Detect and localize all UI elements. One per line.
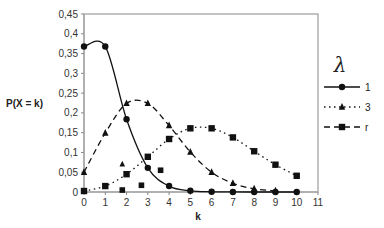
square-marker xyxy=(294,173,300,179)
square-marker xyxy=(230,134,236,140)
square-marker xyxy=(119,187,125,193)
square-marker xyxy=(166,136,172,142)
square-marker xyxy=(251,148,257,154)
y-tick-label: 0,45 xyxy=(59,9,79,20)
x-tick-label: 2 xyxy=(124,197,130,208)
x-tick-label: 3 xyxy=(145,197,151,208)
legend-label: r xyxy=(365,122,369,133)
y-axis-label: P(X = k) xyxy=(6,98,43,109)
y-tick-label: 0,1 xyxy=(64,147,78,158)
x-tick-label: 11 xyxy=(313,197,324,208)
triangle-marker xyxy=(230,179,236,186)
triangle-marker xyxy=(102,129,108,136)
y-tick-label: 0,05 xyxy=(59,167,79,178)
plot-frame xyxy=(84,14,318,192)
circle-marker xyxy=(81,43,87,49)
circle-marker xyxy=(294,189,300,195)
circle-marker xyxy=(123,116,129,122)
circle-marker xyxy=(208,189,214,195)
square-marker xyxy=(123,171,129,177)
circle-marker xyxy=(230,189,236,195)
y-tick-label: 0 xyxy=(72,187,78,198)
y-tick-label: 0,15 xyxy=(59,127,79,138)
circle-marker xyxy=(102,43,108,49)
series xyxy=(81,41,300,195)
x-tick-label: 10 xyxy=(291,197,303,208)
x-tick-label: 1 xyxy=(102,197,108,208)
circle-marker xyxy=(187,188,193,194)
x-tick-label: 9 xyxy=(273,197,279,208)
legend-label: 1 xyxy=(365,82,371,93)
legend-item-3: 3 xyxy=(324,102,371,113)
legend-title: λ xyxy=(333,53,347,77)
x-axis-label: k xyxy=(195,211,201,222)
triangle-marker xyxy=(208,168,214,175)
x-tick-label: 5 xyxy=(188,197,194,208)
x-tick-label: 8 xyxy=(251,197,257,208)
legend-item-1: 1 xyxy=(324,82,371,93)
square-marker xyxy=(81,188,87,194)
y-tick-label: 0,35 xyxy=(59,48,79,59)
square-marker xyxy=(272,162,278,168)
square-marker xyxy=(145,154,151,160)
x-tick-label: 0 xyxy=(81,197,87,208)
legend: λ 13r xyxy=(324,53,371,133)
y-tick-label: 0,2 xyxy=(64,107,78,118)
x-tick-label: 7 xyxy=(230,197,236,208)
circle-marker xyxy=(145,165,151,171)
series-3 xyxy=(81,99,279,193)
poisson-chart: 00,050,10,150,20,250,30,350,40,450123456… xyxy=(0,0,384,228)
square-marker xyxy=(158,167,164,173)
axes: 00,050,10,150,20,250,30,350,40,450123456… xyxy=(59,9,324,209)
triangle-marker xyxy=(119,161,125,167)
square-marker xyxy=(208,125,214,131)
square-marker xyxy=(187,125,193,131)
x-tick-label: 4 xyxy=(166,197,172,208)
square-marker xyxy=(339,124,345,130)
square-marker xyxy=(139,182,145,188)
y-tick-label: 0,4 xyxy=(64,28,78,39)
legend-label: 3 xyxy=(365,102,371,113)
x-tick-label: 6 xyxy=(209,197,215,208)
circle-marker xyxy=(166,183,172,189)
square-marker xyxy=(102,183,108,189)
legend-item-r: r xyxy=(324,122,369,133)
series-line xyxy=(84,127,297,191)
y-tick-label: 0,3 xyxy=(64,68,78,79)
circle-marker xyxy=(339,84,345,90)
y-tick-label: 0,25 xyxy=(59,88,79,99)
series-r xyxy=(81,125,300,194)
